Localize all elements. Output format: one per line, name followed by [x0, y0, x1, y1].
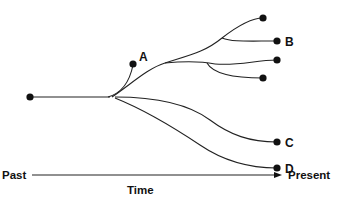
branch-top-pair — [165, 38, 222, 63]
label-a: A — [139, 50, 148, 64]
time-axis-arrowhead — [274, 172, 282, 178]
tip-low — [259, 74, 266, 81]
phylogeny-diagram: A B C D Past Present Time — [0, 0, 338, 206]
branch-c — [115, 97, 277, 142]
branch-upper-clade — [112, 63, 165, 97]
tip-d — [273, 164, 280, 171]
branch-a — [108, 65, 133, 97]
label-c: C — [285, 136, 294, 150]
tip-top — [259, 14, 266, 21]
root-node — [26, 93, 33, 100]
axis-label-present: Present — [288, 169, 330, 181]
branch-mid — [215, 60, 277, 64]
tip-a — [129, 60, 136, 67]
tip-c — [273, 138, 280, 145]
branch-b — [222, 38, 277, 41]
label-b: B — [285, 35, 294, 49]
tip-b — [273, 37, 280, 44]
axis-title-time: Time — [127, 184, 154, 196]
branch-d — [115, 98, 277, 168]
axis-label-past: Past — [2, 169, 26, 181]
branch-top — [222, 18, 263, 38]
branch-low — [207, 63, 263, 78]
tip-mid — [273, 56, 280, 63]
